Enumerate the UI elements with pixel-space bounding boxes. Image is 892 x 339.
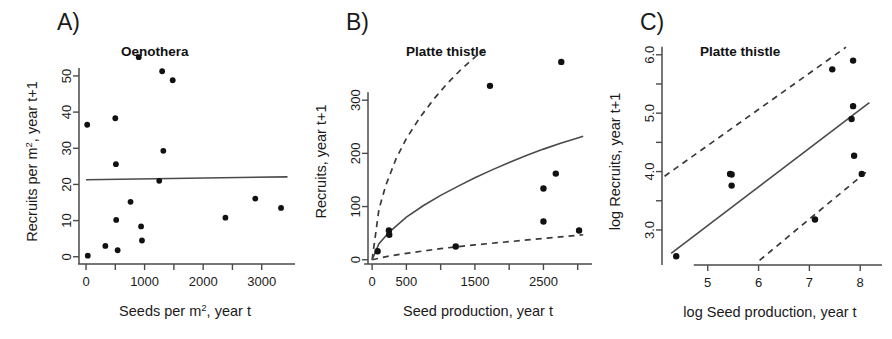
data-point [553,170,559,176]
data-point [386,232,392,238]
y-tick-label: 5.0 [643,104,658,122]
y-tick-label: 40 [60,105,75,119]
data-point [160,148,166,154]
panel-b: B)Platte thistle0500150025000100200300Se… [298,0,598,339]
y-tick-label: 4.0 [643,163,658,181]
y-tick-label: 20 [60,177,75,191]
y-tick-label: 6.0 [643,46,658,64]
x-tick-label: 0 [82,274,89,289]
panel-title-a: Oenothera [121,44,189,59]
panel-title-c: Platte thistle [700,44,781,59]
data-point [848,116,854,122]
y-tick-label: 0 [60,253,75,260]
panel-letter-a: A) [57,9,80,35]
x-axis-label: log Seed production, year t [683,304,856,320]
data-point [128,199,134,205]
x-axis-label: Seeds per m2, year t [119,302,251,319]
data-point [85,253,91,259]
y-tick-label: 0 [349,256,364,263]
data-point [558,59,564,65]
y-tick-label: 10 [60,213,75,227]
panel-c: C)Platte thistle56783.04.05.06.0log Seed… [596,0,892,339]
confidence-band-lower [372,235,583,260]
y-tick-label: 50 [60,69,75,83]
x-tick-label: 2500 [529,274,558,289]
data-point [159,68,165,74]
data-point [223,215,229,221]
x-tick-label: 1000 [130,274,159,289]
data-point [102,243,108,249]
y-axis-label: Recruits per m2, year t+1 [23,81,40,241]
data-point [728,182,734,188]
confidence-band-lower [760,172,867,261]
data-point [113,161,119,167]
panel-letter-b: B) [346,9,369,35]
x-tick-label: 500 [396,274,418,289]
figure-canvas: A)Oenothera010002000300001020304050Seeds… [0,0,892,339]
data-point [252,196,258,202]
x-tick-label: 0 [368,274,375,289]
x-axis-label: Seed production, year t [403,303,553,319]
data-point [374,248,380,254]
data-point [84,122,90,128]
y-tick-label: 300 [349,89,364,111]
data-point [278,205,284,211]
x-tick-label: 2000 [189,274,218,289]
x-tick-label: 5 [704,275,711,290]
data-point [138,223,144,229]
panel-a: A)Oenothera010002000300001020304050Seeds… [0,0,300,339]
y-axis-label: Recruits, year t+1 [313,104,329,218]
data-point [850,103,856,109]
x-tick-label: 1500 [460,274,489,289]
panel-a-plot: A)Oenothera010002000300001020304050Seeds… [0,0,300,339]
panel-letter-c: C) [640,9,664,35]
data-point [540,185,546,191]
data-point [139,238,145,244]
data-point [112,115,118,121]
data-point [113,217,119,223]
panel-b-plot: B)Platte thistle0500150025000100200300Se… [298,0,598,339]
panel-c-plot: C)Platte thistle56783.04.05.06.0log Seed… [596,0,892,339]
x-tick-label: 7 [806,275,813,290]
data-point [859,171,865,177]
regression-line [372,136,583,259]
data-point [829,66,835,72]
data-point [487,83,493,89]
y-tick-label: 3.0 [643,221,658,239]
data-point [728,171,734,177]
data-point [540,218,546,224]
data-point [851,153,857,159]
regression-line [86,177,287,180]
data-point [576,227,582,233]
data-point [115,247,121,253]
x-tick-label: 8 [857,275,864,290]
data-point [170,77,176,83]
x-tick-label: 3000 [247,274,276,289]
data-point [850,57,856,63]
x-tick-label: 6 [755,275,762,290]
data-point [156,178,162,184]
confidence-band-upper [665,47,846,176]
regression-line [671,103,869,254]
data-point [673,253,679,259]
data-point [453,243,459,249]
data-point [136,54,142,60]
y-axis-label: log Recruits, year t+1 [607,93,623,230]
data-point [812,216,818,222]
y-tick-label: 200 [349,143,364,165]
y-tick-label: 30 [60,141,75,155]
y-tick-label: 100 [349,196,364,218]
